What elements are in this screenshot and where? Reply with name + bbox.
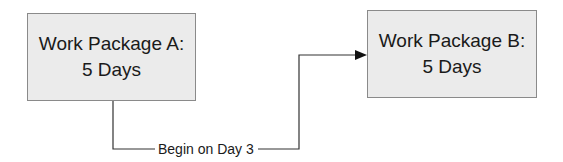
work-package-a-node: Work Package A: 5 Days — [27, 13, 196, 101]
node-duration: 5 Days — [82, 57, 141, 83]
node-title: Work Package A: — [39, 31, 184, 57]
work-package-b-node: Work Package B: 5 Days — [367, 10, 537, 98]
node-title: Work Package B: — [379, 28, 525, 54]
edge-label: Begin on Day 3 — [157, 140, 255, 158]
arrow-head-icon — [355, 50, 367, 60]
node-duration: 5 Days — [422, 54, 481, 80]
